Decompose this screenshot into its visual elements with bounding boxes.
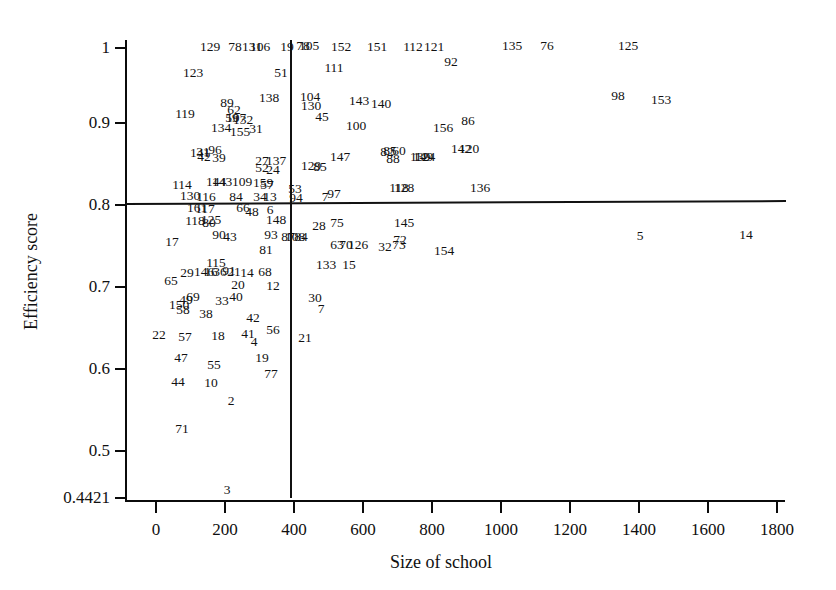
y-tick-1	[115, 47, 125, 49]
data-point-label: 32	[378, 240, 392, 254]
data-point-label: 48	[245, 205, 259, 219]
data-point-label: 42	[197, 150, 211, 164]
data-point-label: 14	[739, 228, 753, 242]
x-tick-label-1600: 1600	[678, 521, 738, 538]
data-point-label: 120	[459, 142, 479, 156]
y-tick-0.5	[115, 450, 125, 452]
y-tick-label-0-9: 0.9	[35, 114, 110, 131]
data-point-label: 28	[312, 219, 326, 233]
data-point-label: 100	[346, 119, 366, 133]
data-point-label: 143	[212, 175, 232, 189]
data-point-label: 147	[330, 150, 350, 164]
data-point-label: 39	[212, 151, 226, 165]
chart-figure: 1 0.9 0.8 0.7 0.6 0.5 0.4421 0 200 400 6…	[0, 0, 836, 590]
data-point-label: 76	[540, 39, 554, 53]
y-tick-0.4421	[115, 497, 125, 499]
data-point-label: 121	[424, 40, 444, 54]
x-tick-1000	[500, 502, 502, 513]
x-tick-1400	[638, 502, 640, 513]
scatter-plot-area: 1 0.9 0.8 0.7 0.6 0.5 0.4421 0 200 400 6…	[0, 0, 836, 590]
y-tick-0.7	[115, 286, 125, 288]
data-point-label: 3	[224, 483, 231, 497]
data-point-label: 93	[264, 228, 278, 242]
x-tick-label-1000: 1000	[471, 521, 531, 538]
data-point-label: 106	[250, 40, 270, 54]
x-tick-label-0: 0	[126, 521, 186, 538]
data-point-label: 97	[327, 187, 341, 201]
data-point-label: 98	[611, 89, 625, 103]
data-point-label: 56	[266, 323, 280, 337]
y-tick-0.6	[115, 368, 125, 370]
data-point-label: 68	[258, 265, 272, 279]
x-tick-1800	[776, 502, 778, 513]
x-tick-label-800: 800	[402, 521, 462, 538]
data-point-label: 155	[230, 125, 250, 139]
data-point-label: 119	[175, 107, 195, 121]
data-point-label: 133	[316, 258, 336, 272]
data-point-label: 136	[470, 181, 490, 195]
data-point-label: 21	[298, 331, 312, 345]
data-point-label: 85	[313, 160, 327, 174]
data-point-label: 105	[299, 39, 319, 53]
y-tick-0.8	[115, 204, 125, 206]
data-point-label: 57	[178, 330, 192, 344]
x-tick-label-600: 600	[333, 521, 393, 538]
data-point-label: 75	[330, 216, 344, 230]
x-tick-400	[293, 502, 295, 513]
data-point-label: 135	[502, 39, 522, 53]
data-point-label: 33	[215, 294, 229, 308]
horizontal-reference-line	[126, 200, 786, 204]
data-point-label: 15	[342, 258, 356, 272]
data-point-label: 109	[232, 175, 252, 189]
x-tick-label-200: 200	[195, 521, 255, 538]
vertical-reference-line	[290, 40, 292, 498]
data-point-label: 92	[444, 55, 458, 69]
data-point-label: 94	[289, 191, 303, 205]
data-point-label: 72	[393, 233, 407, 247]
data-point-label: 128	[394, 181, 414, 195]
x-tick-600	[362, 502, 364, 513]
y-tick-label-0-8: 0.8	[35, 196, 110, 213]
data-point-label: 81	[259, 243, 273, 257]
data-point-label: 145	[394, 216, 414, 230]
data-point-label: 125	[201, 213, 221, 227]
data-point-label: 149	[413, 150, 433, 164]
data-point-label: 126	[348, 238, 368, 252]
x-tick-label-1200: 1200	[540, 521, 600, 538]
data-point-label: 138	[259, 91, 279, 105]
data-point-label: 154	[434, 244, 454, 258]
data-point-label: 4	[251, 335, 258, 349]
data-point-label: 112	[403, 40, 423, 54]
y-tick-label-0-6: 0.6	[35, 360, 110, 377]
data-point-label: 156	[433, 121, 453, 135]
data-point-label: 19	[280, 40, 294, 54]
data-point-label: 31	[249, 122, 263, 136]
y-tick-label-1: 1	[35, 39, 110, 56]
data-point-label: 78	[228, 40, 242, 54]
x-tick-label-1400: 1400	[609, 521, 669, 538]
data-point-label: 86	[461, 114, 475, 128]
data-point-label: 65	[164, 274, 178, 288]
data-point-label: 153	[651, 93, 671, 107]
y-tick-label-0-5: 0.5	[35, 442, 110, 459]
data-point-label: 17	[165, 235, 179, 249]
data-point-label: 125	[618, 39, 638, 53]
data-point-label: 84	[294, 230, 308, 244]
data-point-label: 71	[175, 422, 189, 436]
data-point-label: 44	[171, 375, 185, 389]
data-point-label: 38	[199, 307, 213, 321]
x-tick-1600	[707, 502, 709, 513]
data-point-label: 140	[371, 97, 391, 111]
data-point-label: 22	[152, 328, 166, 342]
data-point-label: 10	[204, 376, 218, 390]
y-tick-label-0-4421: 0.4421	[25, 489, 110, 506]
y-tick-label-0-7: 0.7	[35, 278, 110, 295]
x-axis-title: Size of school	[390, 553, 492, 571]
data-point-label: 51	[274, 66, 288, 80]
data-point-label: 5	[637, 229, 644, 243]
data-point-label: 123	[183, 66, 203, 80]
x-tick-label-1800: 1800	[747, 521, 807, 538]
data-point-label: 19	[255, 351, 269, 365]
data-point-label: 152	[331, 40, 351, 54]
data-point-label: 12	[266, 279, 280, 293]
